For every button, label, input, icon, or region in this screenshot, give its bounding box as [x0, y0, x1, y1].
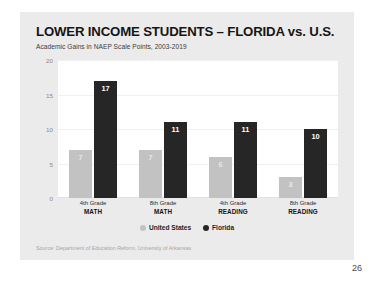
legend-item: United States [140, 224, 191, 231]
x-axis-category: 4th GradeMATH [62, 200, 124, 215]
y-axis-tick: 10 [46, 126, 53, 133]
bar-group: 611 [202, 60, 264, 198]
category-subject: MATH [132, 208, 194, 216]
bar-united-states: 7 [139, 150, 162, 198]
slide-panel: LOWER INCOME STUDENTS – FLORIDA vs. U.S.… [20, 12, 354, 260]
y-axis-tick: 5 [50, 160, 53, 167]
bar-groups: 717711611310 [58, 60, 338, 198]
legend-label: Florida [212, 224, 234, 231]
bar-group: 717 [62, 60, 124, 198]
circle-black-icon [203, 225, 209, 231]
legend-item: Florida [203, 224, 234, 231]
x-axis-category: 8th GradeMATH [132, 200, 194, 215]
chart-legend: United StatesFlorida [20, 224, 354, 231]
bar-group: 310 [272, 60, 334, 198]
category-subject: MATH [62, 208, 124, 216]
x-axis-category: 4th GradeREADING [202, 200, 264, 215]
circle-gray-icon [140, 225, 146, 231]
bar-united-states: 7 [69, 150, 92, 198]
chart-subtitle: Academic Gains in NAEP Scale Points, 200… [36, 43, 344, 50]
y-axis-tick: 20 [46, 57, 53, 64]
source-note: Source: Department of Education Reform, … [36, 245, 191, 251]
category-subject: READING [272, 208, 334, 216]
legend-label: United States [149, 224, 191, 231]
y-axis-tick: 0 [50, 195, 53, 202]
bar-value-label: 11 [164, 125, 187, 134]
bar-florida: 17 [94, 81, 117, 198]
chart-header: LOWER INCOME STUDENTS – FLORIDA vs. U.S.… [36, 25, 344, 50]
x-axis-category: 8th GradeREADING [272, 200, 334, 215]
bar-group: 711 [132, 60, 194, 198]
category-subject: READING [202, 208, 264, 216]
bar-value-label: 6 [209, 160, 232, 169]
category-grade: 4th Grade [62, 200, 124, 208]
category-grade: 8th Grade [132, 200, 194, 208]
page-number: 26 [352, 263, 362, 273]
bar-value-label: 11 [234, 125, 257, 134]
y-axis-tick: 15 [46, 91, 53, 98]
bar-florida: 10 [304, 129, 327, 198]
bar-value-label: 17 [94, 84, 117, 93]
x-axis-labels: 4th GradeMATH8th GradeMATH4th GradeREADI… [58, 200, 338, 215]
bar-value-label: 7 [69, 153, 92, 162]
bar-value-label: 10 [304, 132, 327, 141]
bar-value-label: 7 [139, 153, 162, 162]
y-axis: 20151050 [36, 60, 56, 198]
bar-united-states: 6 [209, 157, 232, 198]
bar-florida: 11 [164, 122, 187, 198]
bar-united-states: 3 [279, 177, 302, 198]
bar-florida: 11 [234, 122, 257, 198]
plot-area: 717711611310 [58, 60, 338, 198]
category-grade: 8th Grade [272, 200, 334, 208]
chart-plot-wrapper: 20151050 717711611310 4th GradeMATH8th G… [36, 60, 338, 212]
bar-value-label: 3 [279, 180, 302, 189]
category-grade: 4th Grade [202, 200, 264, 208]
page-title: LOWER INCOME STUDENTS – FLORIDA vs. U.S. [36, 25, 344, 40]
